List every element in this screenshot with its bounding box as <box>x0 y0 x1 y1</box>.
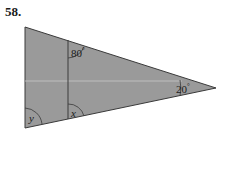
triangle-figure: 80° 20° x y <box>0 0 231 189</box>
triangle-shape <box>25 27 216 128</box>
angle-label-y: y <box>28 112 34 124</box>
angle-label-x: x <box>70 107 76 119</box>
